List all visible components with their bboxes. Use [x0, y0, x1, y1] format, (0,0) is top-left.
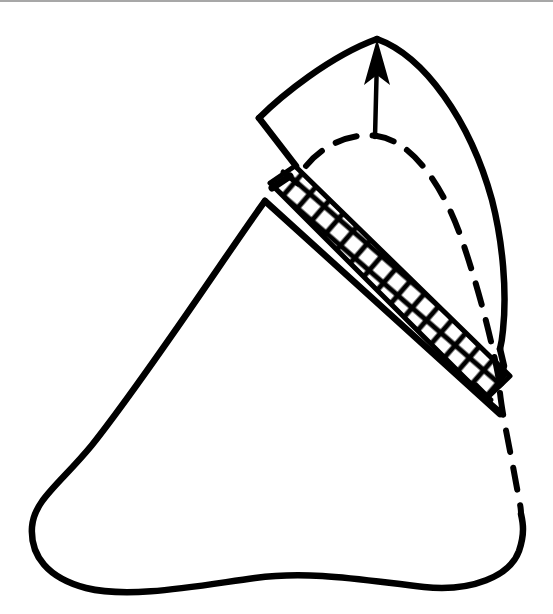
flap-left-edge — [259, 118, 296, 166]
main-body-outline — [32, 201, 523, 592]
flap-top-curve — [259, 39, 377, 118]
direction-arrow-group — [364, 39, 390, 137]
band-lower-edge — [265, 201, 500, 414]
line-diagram — [0, 0, 553, 614]
dashed-lower-tail — [500, 393, 521, 514]
figure-canvas — [0, 0, 553, 614]
main-body-group — [32, 201, 523, 592]
